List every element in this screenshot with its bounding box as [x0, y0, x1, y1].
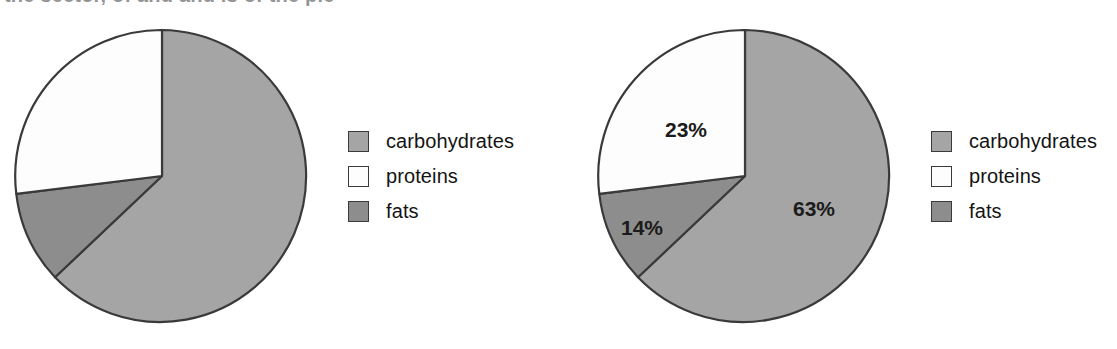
legend-right: carbohydrates proteins fats: [931, 124, 1111, 229]
pie-label-proteins: 23%: [665, 118, 707, 141]
legend-swatch-proteins: [931, 166, 952, 187]
legend-item-carbohydrates[interactable]: carbohydrates: [931, 124, 1111, 159]
pie-svg-left: [14, 28, 310, 324]
legend-swatch-carbohydrates: [348, 131, 369, 152]
legend-label-carbohydrates: carbohydrates: [386, 130, 514, 153]
legend-label-proteins: proteins: [386, 165, 458, 188]
legend-label-carbohydrates: carbohydrates: [969, 130, 1097, 153]
legend-label-fats: fats: [386, 200, 419, 223]
legend-item-fats[interactable]: fats: [348, 194, 528, 229]
pie-slice-proteins[interactable]: [15, 30, 162, 194]
pie-slices-right: [598, 30, 889, 322]
legend-item-proteins[interactable]: proteins: [348, 159, 528, 194]
legend-item-fats[interactable]: fats: [931, 194, 1111, 229]
pie-svg-right: 63% 23% 14%: [597, 28, 893, 324]
legend-swatch-fats: [348, 201, 369, 222]
legend-item-proteins[interactable]: proteins: [931, 159, 1111, 194]
pie-figure-right: 63% 23% 14% carbohydrates proteins fats: [583, 0, 1117, 349]
legend-swatch-proteins: [348, 166, 369, 187]
legend-swatch-carbohydrates: [931, 131, 952, 152]
pie-slices-left: [15, 30, 306, 322]
legend-item-carbohydrates[interactable]: carbohydrates: [348, 124, 528, 159]
legend-left: carbohydrates proteins fats: [348, 124, 528, 229]
pie-label-fats: 14%: [621, 216, 663, 239]
pie-label-carbohydrates: 63%: [793, 197, 835, 220]
pie-chart-right: 63% 23% 14%: [597, 28, 893, 324]
pie-chart-left: [14, 28, 310, 324]
legend-label-proteins: proteins: [969, 165, 1041, 188]
pie-figure-left: carbohydrates proteins fats: [0, 0, 540, 349]
legend-label-fats: fats: [969, 200, 1002, 223]
pie-slice-proteins[interactable]: [598, 30, 745, 194]
legend-swatch-fats: [931, 201, 952, 222]
